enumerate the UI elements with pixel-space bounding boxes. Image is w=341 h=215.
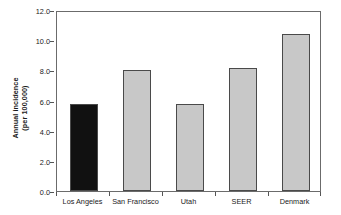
y-axis-tick-mark [50,41,54,42]
y-axis-tick-label: 8.0 [40,67,50,76]
y-axis-tick-mark [50,192,54,193]
bar-series [57,12,320,191]
y-axis-tick-mark [50,11,54,12]
x-axis-tick-mark [109,192,110,196]
plot-area [56,11,321,192]
bar-los-angeles [70,104,98,191]
x-axis-category-label: Utah [181,197,196,206]
y-axis-tick-label: 0.0 [40,188,50,197]
y-axis-tick-label: 6.0 [40,97,50,106]
y-axis-tick-label: 4.0 [40,127,50,136]
bar-denmark [282,34,310,191]
y-axis-title-line-1: Annual incidence [11,77,20,138]
x-axis-tick-mark [320,192,321,196]
y-axis-tick-labels: 0.02.04.06.08.010.012.0 [26,0,54,215]
bar-chart-figure: Annual incidence (per 100,000) 0.02.04.0… [0,0,341,215]
y-axis-tick-mark [50,71,54,72]
x-axis-tick-mark [215,192,216,196]
y-axis-tick-label: 12.0 [36,7,50,16]
bar-seer [229,68,257,191]
x-axis: Los AngelesSan FranciscoUtahSEERDenmark [56,192,321,215]
x-axis-tick-mark [56,192,57,196]
bar-san-francisco [123,70,151,191]
y-axis-tick-label: 10.0 [36,37,50,46]
x-axis-category-label: Denmark [280,197,310,206]
x-axis-category-label: San Francisco [112,197,159,206]
y-axis-tick-mark [50,102,54,103]
x-axis-category-label: SEER [232,197,252,206]
x-axis-tick-mark [162,192,163,196]
y-axis-tick-mark [50,132,54,133]
x-axis-category-label: Los Angeles [63,197,103,206]
x-axis-tick-mark [268,192,269,196]
y-axis-tick-label: 2.0 [40,157,50,166]
bar-utah [176,104,204,191]
y-axis-tick-mark [50,162,54,163]
